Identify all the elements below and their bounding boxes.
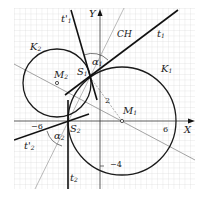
y-axis-label: Y [89,9,96,19]
label-m1: M1 [123,106,137,116]
label-t1-prime: t'1 [61,14,72,24]
label-t2-prime: t'2 [24,141,35,151]
label-k1: K1 [161,64,172,74]
label-t2: t2 [70,173,78,183]
label-m2: M2 [54,70,68,80]
label-k2: K2 [30,42,41,52]
tick-x-pos: 6 [163,126,168,134]
diagram-canvas [0,0,207,199]
label-t1: t1 [157,29,165,39]
label-alpha1: α1 [92,57,103,67]
tick-x-neg: −6 [31,123,43,131]
label-ch: CH [117,30,132,39]
tick-y-neg: −4 [110,161,122,169]
point-m2 [55,81,58,84]
point-m1 [120,119,123,122]
label-alpha2: α2 [54,131,65,141]
x-axis-label: X [184,125,191,135]
tick-y-pos: 2 [105,97,110,105]
label-s2: S2 [70,124,81,134]
label-s1: S1 [77,67,88,77]
